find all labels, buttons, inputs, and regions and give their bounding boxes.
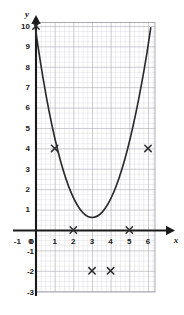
y-tick-label: 0 — [30, 237, 35, 246]
y-tick-label: 2 — [26, 185, 31, 194]
y-tick-label: 10 — [21, 22, 30, 31]
y-tick-label: 3 — [26, 165, 31, 174]
x-tick-label: 4 — [108, 237, 113, 246]
grid-layer — [37, 23, 156, 293]
grid-major — [37, 23, 156, 293]
x-tick-label: 6 — [146, 237, 151, 246]
x-axis-label: x — [173, 235, 179, 245]
x-tick-label: 1 — [52, 237, 57, 246]
parabola-graph-figure: y x -1 0 1 2 3 4 5 6 10 9 8 7 6 5 4 3 2 … — [0, 0, 184, 315]
y-tick-label: 9 — [26, 42, 31, 51]
y-tick-labels: 10 9 8 7 6 5 4 3 2 1 0 -1 -2 -3 — [21, 22, 34, 297]
y-tick-label: 8 — [26, 63, 31, 72]
x-tick-label: 3 — [90, 237, 95, 246]
y-tick-label: 6 — [26, 103, 31, 112]
y-tick-label: -3 — [27, 288, 35, 297]
y-tick-label: -2 — [27, 267, 35, 276]
plot-canvas: y x -1 0 1 2 3 4 5 6 10 9 8 7 6 5 4 3 2 … — [0, 0, 184, 315]
y-tick-label: -1 — [27, 247, 35, 256]
y-axis-label: y — [24, 9, 30, 19]
x-tick-label: 2 — [71, 237, 76, 246]
x-tick-label: -1 — [14, 237, 22, 246]
x-axis-arrowhead — [166, 226, 175, 235]
y-tick-label: 7 — [26, 83, 31, 92]
y-tick-label: 5 — [26, 124, 31, 133]
y-tick-label: 1 — [26, 205, 31, 214]
y-tick-label: 4 — [26, 144, 31, 153]
x-tick-label: 5 — [127, 237, 132, 246]
